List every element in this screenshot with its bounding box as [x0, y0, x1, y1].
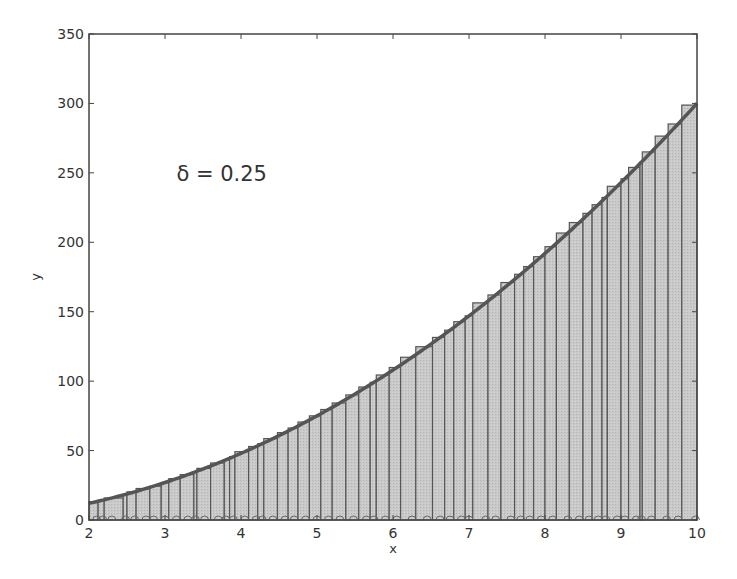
- x-tick-label: 6: [389, 525, 398, 541]
- bar: [488, 295, 501, 520]
- bar: [569, 223, 583, 520]
- x-tick-label: 8: [541, 525, 550, 541]
- bar: [298, 422, 309, 520]
- bar: [655, 136, 668, 520]
- bar: [534, 257, 545, 520]
- y-tick-label: 350: [57, 26, 84, 42]
- bar: [235, 452, 249, 520]
- y-tick-label: 0: [75, 512, 84, 528]
- bar: [682, 105, 697, 520]
- y-tick-label: 300: [57, 95, 84, 111]
- bar: [224, 460, 229, 520]
- bar: [501, 283, 515, 520]
- bar: [249, 447, 258, 520]
- bar: [288, 428, 298, 520]
- x-tick-label: 7: [465, 525, 474, 541]
- delta-annotation: δ = 0.25: [176, 162, 267, 186]
- bar: [309, 416, 320, 520]
- bar: [524, 267, 534, 520]
- bar: [211, 463, 225, 520]
- bar: [180, 475, 194, 520]
- bar: [668, 124, 682, 520]
- y-tick-label: 150: [57, 304, 84, 320]
- bar: [515, 274, 524, 520]
- bar: [473, 303, 488, 520]
- bar: [277, 433, 288, 520]
- bar: [321, 410, 332, 520]
- x-axis-label: x: [389, 541, 397, 556]
- x-tick-label: 3: [161, 525, 170, 541]
- bar: [433, 337, 445, 520]
- bar: [416, 347, 433, 520]
- x-tick-label: 5: [313, 525, 322, 541]
- bar: [389, 368, 400, 520]
- bar: [264, 439, 278, 520]
- y-tick-label: 50: [66, 443, 84, 459]
- y-tick-label: 250: [57, 165, 84, 181]
- x-tick-label: 10: [688, 525, 706, 541]
- bar: [332, 403, 346, 520]
- bar: [161, 483, 169, 520]
- y-tick-label: 200: [57, 234, 84, 250]
- bar: [592, 205, 602, 520]
- bar: [445, 330, 454, 520]
- bar: [230, 457, 235, 520]
- bar: [150, 486, 161, 520]
- y-axis-label: y: [28, 273, 43, 281]
- bar: [556, 233, 569, 520]
- x-tick-label: 2: [85, 525, 94, 541]
- bar: [376, 375, 389, 520]
- bar: [258, 444, 264, 520]
- bar: [346, 395, 359, 520]
- riemann-sum-chart: 2345678910050100150200250300350 x y δ = …: [0, 0, 737, 579]
- bar: [370, 382, 376, 520]
- x-tick-label: 9: [617, 525, 626, 541]
- bar: [169, 479, 180, 520]
- bar: [607, 186, 621, 520]
- bar: [359, 387, 370, 520]
- x-tick-label: 4: [237, 525, 246, 541]
- bar: [136, 488, 150, 520]
- bar: [401, 357, 416, 520]
- bar: [583, 213, 592, 520]
- bar: [197, 468, 211, 520]
- bar: [545, 247, 556, 520]
- bar: [602, 197, 607, 520]
- bar: [629, 167, 640, 520]
- bar: [642, 152, 655, 520]
- bar: [454, 322, 465, 520]
- bar: [621, 179, 629, 520]
- bar: [465, 316, 473, 520]
- y-tick-label: 100: [57, 373, 84, 389]
